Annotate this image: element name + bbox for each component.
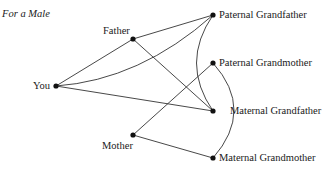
edge-you-father (56, 39, 133, 86)
label-you: You (33, 80, 50, 92)
node-paternal-grandmother (210, 60, 215, 65)
edge-you-paternal-grandfather (56, 15, 213, 86)
label-paternal-grandmother: Paternal Grandmother (219, 57, 312, 69)
node-mother (130, 132, 135, 137)
label-father: Father (103, 25, 130, 37)
node-maternal-grandmother (210, 155, 215, 160)
edge-father-paternal-grandfather (133, 15, 213, 39)
node-father (130, 36, 135, 41)
node-you (53, 83, 58, 88)
label-paternal-grandfather: Paternal Grandfather (219, 9, 307, 21)
node-paternal-grandfather (210, 12, 215, 17)
edge-mother-paternal-grandmother (133, 63, 213, 135)
label-mother: Mother (102, 140, 133, 152)
edge-mother-maternal-grandmother (133, 135, 213, 158)
node-maternal-grandfather (210, 108, 215, 113)
label-maternal-grandfather: Maternal Grandfather (230, 105, 321, 117)
label-maternal-grandmother: Maternal Grandmother (219, 152, 316, 164)
kinship-graph (0, 0, 336, 174)
